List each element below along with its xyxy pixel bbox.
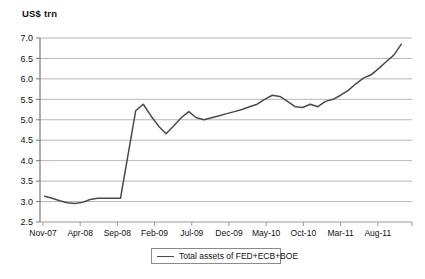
x-axis-tick-label: Nov-07	[29, 228, 57, 238]
x-axis-tick-label: Sep-08	[104, 228, 132, 238]
x-axis-tick-label: Dec-09	[215, 228, 243, 238]
x-axis-tick-label: Oct-10	[291, 228, 317, 238]
legend-line-swatch	[157, 256, 174, 257]
y-axis-tick-label: 6.0	[20, 74, 33, 84]
y-axis-tick-label: 3.0	[20, 197, 33, 207]
line-chart: 2.53.03.54.04.55.05.56.06.57.0 Nov-07Apr…	[0, 0, 425, 279]
y-axis-tick-label: 2.5	[20, 217, 33, 227]
y-axis-tick-label: 3.5	[20, 176, 33, 186]
data-series-line	[45, 44, 402, 203]
y-axis-tick-label: 5.0	[20, 115, 33, 125]
x-axis-tick-label: Apr-08	[67, 228, 93, 238]
y-axis-tick-label: 6.5	[20, 54, 33, 64]
y-axis-tick-label: 4.0	[20, 156, 33, 166]
y-axis-tick-label: 4.5	[20, 135, 33, 145]
x-axis-tick-label: Feb-09	[141, 228, 168, 238]
x-axis-ticks-group: Nov-07Apr-08Sep-08Feb-09Jul-09Dec-09May-…	[29, 222, 412, 238]
y-axis-tick-label: 7.0	[20, 33, 33, 43]
y-axis-tick-label: 5.5	[20, 95, 33, 105]
legend: Total assets of FED+ECB+BOE	[151, 248, 281, 264]
gridlines-group	[40, 38, 412, 202]
legend-label: Total assets of FED+ECB+BOE	[179, 252, 298, 261]
x-axis-tick-label: Jul-09	[180, 228, 203, 238]
chart-container: US$ trn 2.53.03.54.04.55.05.56.06.57.0 N…	[0, 0, 425, 279]
x-axis-tick-label: Mar-11	[327, 228, 354, 238]
y-axis-ticks-group: 2.53.03.54.04.55.05.56.06.57.0	[20, 33, 40, 227]
x-axis-tick-label: Aug-11	[364, 228, 391, 238]
x-axis-tick-label: May-10	[252, 228, 281, 238]
